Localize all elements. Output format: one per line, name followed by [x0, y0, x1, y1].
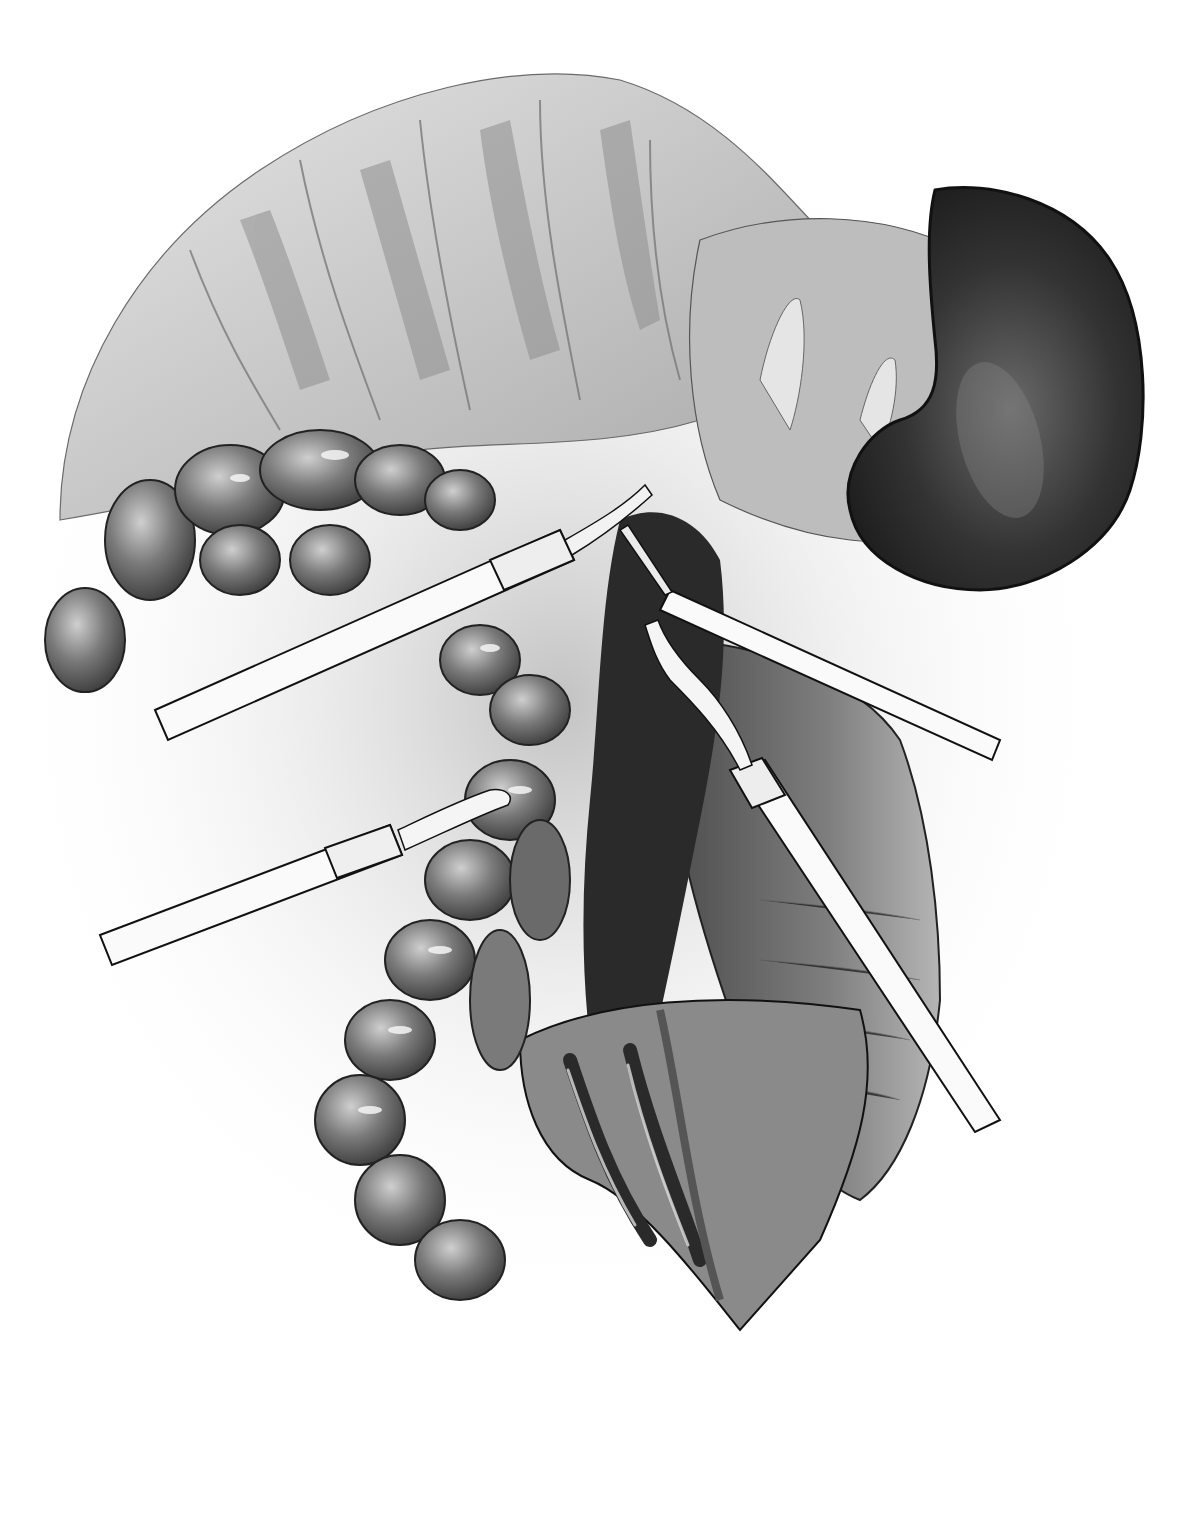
illustration-canvas — [0, 0, 1198, 1514]
surgical-illustration: Grayscale pencil surgical illustration o… — [0, 0, 1198, 1514]
